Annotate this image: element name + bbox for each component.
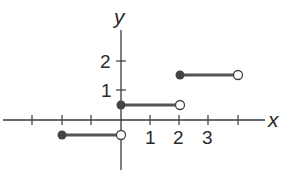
y-tick-label-2: 2 — [100, 51, 111, 72]
x-tick-label-3: 3 — [202, 127, 213, 148]
step-function-chart: y x 1 2 3 1 2 — [0, 0, 283, 172]
x-tick-label-1: 1 — [145, 127, 156, 148]
y-tick-label-1: 1 — [101, 80, 112, 101]
y-axis-label: y — [112, 5, 126, 28]
x-tick-label-2: 2 — [173, 127, 184, 148]
x-axis-label: x — [267, 108, 280, 131]
step-segments — [62, 75, 234, 135]
